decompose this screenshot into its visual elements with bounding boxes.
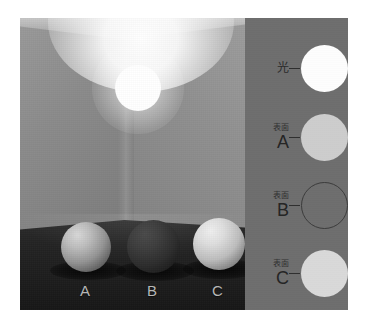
- swatch-light: [301, 45, 348, 92]
- legend-row-surface-b: 表面 B: [245, 175, 348, 237]
- leader-line-light: [289, 68, 300, 69]
- sphere-b: [127, 220, 180, 273]
- sphere-label-c: C: [212, 283, 223, 298]
- figure-container: A B C 光 表面 A 表面 B: [20, 18, 348, 310]
- legend-row-surface-c: 表面 C: [245, 243, 348, 305]
- legend-panel: 光 表面 A 表面 B 表面 C: [245, 18, 348, 310]
- swatch-surface-a: [301, 114, 348, 161]
- legend-kanji-light: 光: [277, 62, 289, 75]
- legend-letter-surface-c: C: [276, 269, 289, 288]
- sphere-c: [193, 218, 245, 270]
- legend-row-light: 光: [245, 38, 348, 100]
- rendered-scene: A B C: [20, 18, 245, 310]
- leader-line-surface-b: [289, 205, 300, 206]
- leader-line-surface-a: [289, 137, 300, 138]
- sphere-a: [61, 222, 111, 272]
- swatch-surface-c: [301, 250, 348, 297]
- legend-label-surface-c: 表面 C: [249, 243, 289, 305]
- legend-row-surface-a: 表面 A: [245, 107, 348, 169]
- legend-label-surface-b: 表面 B: [249, 175, 289, 237]
- legend-label-light: 光: [249, 38, 289, 100]
- legend-label-surface-a: 表面 A: [249, 107, 289, 169]
- sphere-label-b: B: [147, 283, 158, 298]
- legend-letter-surface-a: A: [277, 133, 289, 152]
- sphere-label-a: A: [80, 283, 91, 298]
- swatch-surface-b: [301, 182, 348, 229]
- legend-letter-surface-b: B: [277, 201, 289, 220]
- leader-line-surface-c: [289, 273, 300, 274]
- light-source-lamp: [115, 65, 161, 111]
